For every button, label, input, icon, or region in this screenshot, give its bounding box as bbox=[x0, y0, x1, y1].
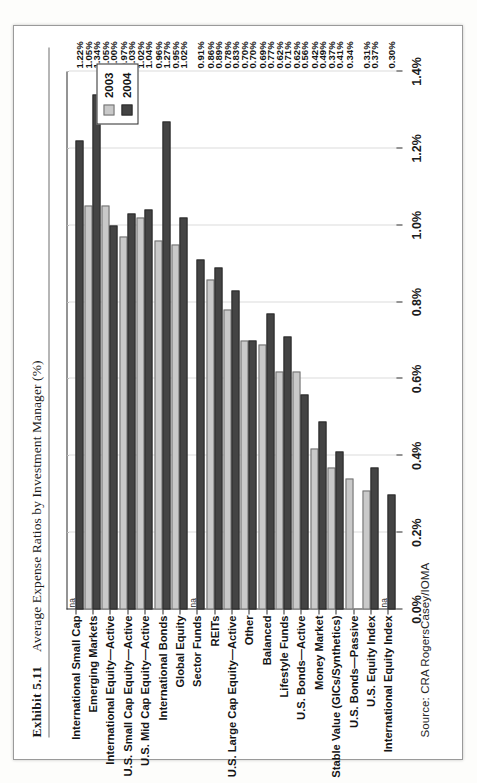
x-axis-tick bbox=[396, 531, 402, 532]
bar-group-2003: 0.37% bbox=[327, 71, 335, 609]
page-title: Average Expense Ratios by Investment Man… bbox=[28, 360, 44, 652]
bar-2003: 0.95% bbox=[171, 244, 179, 609]
bar-group-2003: 0.97% bbox=[119, 71, 127, 609]
chart-row: International Equity—Active1.05%1.00% bbox=[101, 71, 118, 609]
legend-label-2003: 2003 bbox=[102, 72, 114, 98]
bar-2004: 1.22% bbox=[75, 140, 83, 609]
category-tick bbox=[75, 609, 76, 614]
chart-legend: 2003 2004 bbox=[96, 63, 138, 124]
chart-row: REITs0.86%0.89% bbox=[205, 71, 222, 609]
category-label: International Small Cap bbox=[69, 615, 81, 739]
bar-2004: 0.30% bbox=[387, 494, 395, 609]
bar-2003: 1.05% bbox=[101, 206, 109, 610]
book-page: Exhibit 5.11 Average Expense Ratios by I… bbox=[13, 25, 463, 760]
bar-2004: 1.34% bbox=[92, 94, 100, 609]
legend-label-2004: 2004 bbox=[120, 72, 132, 98]
chart-row: U.S. Large Cap Equity—Active0.78%0.83% bbox=[222, 71, 239, 609]
category-label: U.S. Bonds—Active bbox=[294, 615, 306, 719]
category-label: Money Market bbox=[312, 615, 324, 690]
legend-item-2003: 2003 bbox=[102, 72, 114, 115]
bar-2003: 0.96% bbox=[154, 240, 162, 609]
chart-row: U.S. Bonds—Active0.62%0.56% bbox=[292, 71, 309, 609]
chart-row: U.S. Bonds—Passive0.34% bbox=[344, 71, 361, 609]
chart-row: International Small Capna1.22% bbox=[66, 71, 83, 609]
bar-value-label: 0.34% bbox=[343, 41, 354, 68]
bar-group-2004: 0.83% bbox=[231, 71, 239, 609]
category-label: International Equity—Active bbox=[103, 615, 115, 764]
bar-group-2003: 0.62% bbox=[275, 71, 283, 609]
bar-group-2004: 0.91% bbox=[196, 71, 204, 609]
bar-group-2003: 0.69% bbox=[258, 71, 266, 609]
x-axis-tick bbox=[396, 301, 402, 302]
bar-2004: 0.71% bbox=[283, 336, 291, 609]
bar-2004: 0.41% bbox=[335, 451, 343, 609]
bar-group-2003: 0.62% bbox=[292, 71, 300, 609]
exhibit-header: Exhibit 5.11 Average Expense Ratios by I… bbox=[28, 47, 49, 737]
bar-2003: 1.02% bbox=[136, 217, 144, 609]
bar-2003: 0.42% bbox=[310, 448, 318, 609]
bar-2003: 0.37% bbox=[327, 467, 335, 609]
category-tick bbox=[300, 609, 301, 614]
chart-row: Balanced0.69%0.77% bbox=[257, 71, 274, 609]
category-tick bbox=[196, 609, 197, 614]
chart-row: International Equity Indexna0.30% bbox=[379, 71, 396, 609]
bar-group-2004: 1.02% bbox=[179, 71, 187, 609]
bar-2003: 1.05% bbox=[84, 206, 92, 610]
chart-row: U.S. Small Cap Equity—Active0.97%1.03% bbox=[118, 71, 135, 609]
category-tick bbox=[231, 609, 232, 614]
category-tick bbox=[92, 609, 93, 614]
x-axis-tick bbox=[396, 70, 402, 71]
category-label: Stable Value (GICs/Synthetics) bbox=[329, 615, 341, 777]
bar-group-2004: 0.77% bbox=[266, 71, 274, 609]
category-label: Emerging Markets bbox=[86, 615, 98, 712]
category-label: U.S. Mid Cap Equity—Active bbox=[138, 615, 150, 765]
bar-group-2003: 0.70% bbox=[240, 71, 248, 609]
x-axis-tick bbox=[396, 454, 402, 455]
bar-group-2003: 0.95% bbox=[171, 71, 179, 609]
category-tick bbox=[127, 609, 128, 614]
chart-row: Sector Fundsna0.91% bbox=[188, 71, 205, 609]
category-label: U.S. Equity Index bbox=[364, 615, 376, 706]
chart-row: Emerging Markets1.05%1.34% bbox=[83, 71, 100, 609]
category-tick bbox=[144, 609, 145, 614]
bar-group-2004: 0.89% bbox=[214, 71, 222, 609]
bar-group-2004: 0.70% bbox=[248, 71, 256, 609]
bar-2004: 0.83% bbox=[231, 290, 239, 609]
x-axis-tick-label: 0.8% bbox=[409, 287, 423, 316]
bar-chart: 0.0%0.2%0.4%0.6%0.8%1.0%1.2%1.4% Interna… bbox=[66, 71, 396, 609]
bar-2004: 0.77% bbox=[266, 313, 274, 609]
legend-swatch-icon-2003 bbox=[103, 104, 114, 115]
category-tick bbox=[266, 609, 267, 614]
x-axis-tick bbox=[396, 224, 402, 225]
bar-group-2003: 0.31% bbox=[362, 71, 370, 609]
exhibit-number: Exhibit 5.11 bbox=[28, 666, 44, 737]
x-axis-tick-label: 1.0% bbox=[409, 210, 423, 239]
category-label: Lifestyle Funds bbox=[277, 615, 289, 697]
bar-group-2004: 0.37% bbox=[370, 71, 378, 609]
bar-2004: 0.37% bbox=[370, 467, 378, 609]
bar-2003: 0.34% bbox=[345, 478, 353, 609]
chart-row: Global Equity0.95%1.02% bbox=[170, 71, 187, 609]
bar-2004: 0.56% bbox=[300, 394, 308, 609]
bar-group-2004: 1.27% bbox=[162, 71, 170, 609]
bar-2003: 0.70% bbox=[240, 340, 248, 609]
na-marker: na bbox=[378, 598, 388, 607]
x-axis-tick bbox=[396, 147, 402, 148]
category-tick bbox=[179, 609, 180, 614]
bar-group-2004: 0.30% bbox=[387, 71, 395, 609]
x-axis-tick-label: 0.6% bbox=[409, 364, 423, 393]
page-canvas: Exhibit 5.11 Average Expense Ratios by I… bbox=[0, 0, 477, 783]
bar-2004: 1.00% bbox=[109, 225, 117, 609]
header-divider bbox=[48, 47, 49, 737]
bar-2004: 0.91% bbox=[196, 259, 204, 609]
bar-2003: 0.31% bbox=[362, 490, 370, 609]
x-axis-tick bbox=[396, 377, 402, 378]
chart-row: International Bonds0.96%1.27% bbox=[153, 71, 170, 609]
na-marker: na bbox=[187, 598, 197, 607]
category-label: Balanced bbox=[260, 615, 272, 665]
rotated-figure: Exhibit 5.11 Average Expense Ratios by I… bbox=[14, 26, 462, 759]
bar-2004: 0.89% bbox=[214, 267, 222, 609]
na-marker: na bbox=[66, 598, 76, 607]
bar-2003: 0.62% bbox=[275, 371, 283, 609]
category-tick bbox=[387, 609, 388, 614]
